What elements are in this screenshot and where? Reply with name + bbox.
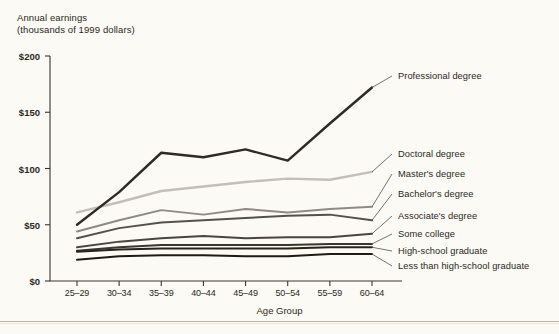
y-axis-tick-label: $0: [6, 276, 40, 287]
series-line: [77, 88, 372, 225]
x-axis-tick-label: 50–54: [266, 288, 310, 298]
legend-leader-line: [372, 247, 392, 251]
legend-label: Master's degree: [398, 169, 465, 179]
legend-leader-line: [372, 216, 392, 234]
legend-leader-line: [372, 194, 392, 220]
legend-leader-line: [372, 154, 392, 172]
x-axis-tick-label: 35–39: [139, 288, 183, 298]
x-axis-tick-label: 40–44: [181, 288, 225, 298]
chart-canvas: Annual earnings (thousands of 1999 dolla…: [0, 0, 559, 334]
x-axis-tick-label: 45–49: [224, 288, 268, 298]
legend-label: High-school graduate: [398, 246, 487, 256]
legend-label: Professional degree: [398, 71, 482, 81]
series-line: [77, 215, 372, 239]
series-line: [77, 254, 372, 260]
chart-plot-area: [0, 0, 559, 334]
legend-leader-line: [372, 76, 392, 88]
y-axis-tick-label: $100: [6, 163, 40, 174]
legend-label: Associate's degree: [398, 211, 477, 221]
legend-label: Less than high-school graduate: [398, 261, 529, 271]
legend-label: Bachelor's degree: [398, 189, 474, 199]
x-axis-tick-label: 30–34: [97, 288, 141, 298]
footer-rule: [0, 321, 559, 322]
legend-label: Some college: [398, 229, 455, 239]
legend-leader-line: [372, 254, 392, 266]
legend-leader-line: [372, 234, 392, 244]
legend-label: Doctoral degree: [398, 149, 465, 159]
x-axis-tick-label: 25–29: [55, 288, 99, 298]
y-axis-tick-label: $200: [6, 51, 40, 62]
x-axis-tick-label: 55–59: [308, 288, 352, 298]
y-axis-tick-label: $150: [6, 107, 40, 118]
x-axis-title: Age Group: [0, 305, 559, 316]
x-axis-tick-label: 60–64: [350, 288, 394, 298]
series-line: [77, 172, 372, 213]
legend-leader-line: [372, 174, 392, 207]
footer-rule-secondary: [0, 323, 559, 324]
y-axis-tick-label: $50: [6, 219, 40, 230]
